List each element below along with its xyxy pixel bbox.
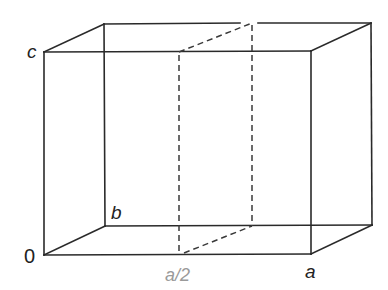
label-b: b bbox=[111, 202, 122, 223]
edge-c-bc bbox=[44, 24, 104, 52]
edge-bc-abc-left bbox=[104, 23, 240, 24]
edge-origin-b bbox=[44, 226, 105, 255]
unit-cell-diagram: c b 0 a/2 a bbox=[0, 0, 388, 290]
edge-c-ac bbox=[44, 51, 311, 52]
dashed-top-diagonal bbox=[179, 23, 252, 52]
edge-a-ab bbox=[311, 225, 372, 254]
edge-b-bc bbox=[104, 24, 105, 226]
label-c: c bbox=[27, 41, 37, 62]
edge-ac-abc bbox=[311, 23, 371, 51]
box-edges bbox=[44, 23, 372, 255]
dashed-bottom-diagonal bbox=[184, 226, 252, 253]
half-plane-dashed bbox=[179, 23, 252, 255]
edge-ab-abc bbox=[371, 23, 372, 225]
edge-b-ab bbox=[105, 225, 372, 226]
label-a: a bbox=[305, 261, 316, 282]
edge-origin-a bbox=[44, 254, 311, 255]
label-half-a: a/2 bbox=[165, 265, 190, 285]
label-origin: 0 bbox=[24, 245, 35, 267]
